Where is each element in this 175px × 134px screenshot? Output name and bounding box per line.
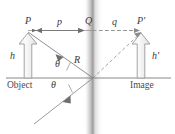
- p-arrowhead-right: [78, 28, 84, 33]
- label-vertex-point-Q: Q: [85, 16, 92, 26]
- label-object-word: Object: [7, 81, 32, 91]
- label-center-point-R: R: [74, 55, 80, 65]
- label-object-point-P: P: [25, 16, 31, 26]
- label-image-distance-q: q: [112, 17, 117, 27]
- image-arrow: [132, 33, 150, 78]
- label-image-point-P-prime: P': [137, 16, 145, 26]
- label-image-word: Image: [130, 81, 154, 91]
- label-angle-theta-lower: θ: [51, 80, 56, 90]
- incident-ray: [28, 32, 93, 78]
- angle-tick-upper: [67, 62, 71, 71]
- extended-ray-arrowhead: [63, 96, 71, 104]
- optics-ray-diagram: P p Q q P' h h' θ θ R Object Image: [0, 0, 175, 134]
- object-arrow: [19, 33, 37, 78]
- label-image-height-h-prime: h': [152, 51, 159, 61]
- label-object-distance-p: p: [57, 17, 62, 27]
- label-angle-theta-upper: θ: [55, 59, 60, 69]
- label-object-height-h: h: [10, 51, 15, 61]
- angle-tick-lower: [69, 85, 73, 93]
- p-arrowhead-left: [36, 28, 42, 33]
- q-arrowhead-right: [134, 28, 140, 33]
